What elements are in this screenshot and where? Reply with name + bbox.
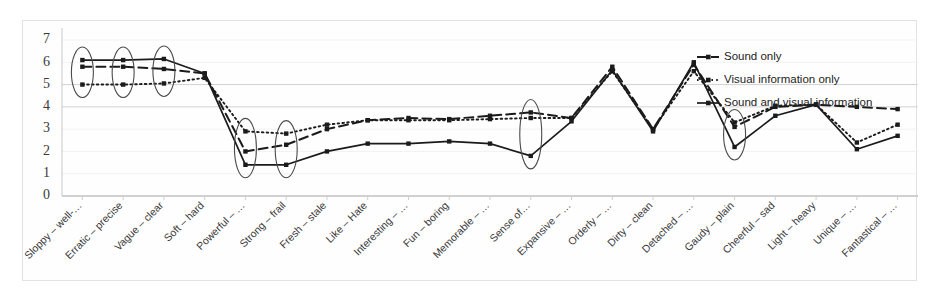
data-point-2-2 [162, 57, 166, 61]
data-point-0-1 [121, 65, 125, 69]
data-point-1-5 [284, 131, 288, 135]
data-point-2-9 [447, 139, 451, 143]
data-point-1-6 [325, 122, 329, 126]
data-point-1-15 [692, 69, 696, 73]
y-tick-label-2: 2 [43, 143, 50, 158]
data-point-2-4 [243, 163, 247, 167]
legend-marker-2 [706, 101, 711, 106]
data-point-0-6 [325, 127, 329, 131]
data-point-2-1 [121, 58, 125, 62]
x-axis [62, 196, 918, 200]
data-point-0-11 [529, 110, 533, 114]
y-axis: 01234567 [43, 28, 62, 202]
data-point-1-19 [855, 140, 859, 144]
y-tick-label-4: 4 [43, 98, 50, 113]
y-tick-label-6: 6 [43, 54, 50, 69]
data-point-2-5 [284, 163, 288, 167]
data-point-2-11 [529, 154, 533, 158]
annotation-ellipse-1 [112, 47, 134, 98]
y-tick-label-0: 0 [43, 187, 50, 202]
y-tick-label-7: 7 [43, 31, 50, 46]
data-point-2-12 [569, 119, 573, 123]
data-point-1-8 [406, 118, 410, 122]
data-point-0-0 [80, 65, 84, 69]
data-point-1-20 [895, 122, 899, 126]
data-point-1-0 [80, 82, 84, 86]
data-point-2-7 [366, 141, 370, 145]
legend-label-1: Visual information only [724, 73, 840, 85]
data-point-0-5 [284, 143, 288, 147]
x-tick-labels: Sloppy – well-…Erratic – preciseVague – … [22, 198, 899, 261]
data-point-2-20 [895, 134, 899, 138]
legend-label-2: Sound and visual information [724, 96, 872, 108]
data-point-0-16 [732, 125, 736, 129]
data-point-2-19 [855, 147, 859, 151]
data-point-1-16 [732, 120, 736, 124]
annotation-ellipse-0 [71, 47, 93, 98]
data-point-2-15 [692, 60, 696, 64]
y-tick-label-1: 1 [43, 165, 50, 180]
data-point-2-10 [488, 141, 492, 145]
data-point-1-11 [529, 116, 533, 120]
data-point-1-9 [447, 118, 451, 122]
data-point-1-2 [162, 81, 166, 85]
data-point-0-20 [895, 107, 899, 111]
data-point-2-16 [732, 145, 736, 149]
data-point-0-4 [243, 149, 247, 153]
data-point-2-3 [202, 71, 206, 75]
data-point-2-0 [80, 58, 84, 62]
annotation-ellipse-11 [520, 99, 542, 168]
data-point-1-4 [243, 129, 247, 133]
y-tick-label-3: 3 [43, 120, 50, 135]
annotation-ellipse-16 [724, 109, 746, 160]
annotation-ellipses [71, 46, 745, 178]
data-point-1-1 [121, 82, 125, 86]
data-point-2-8 [406, 141, 410, 145]
data-point-1-7 [366, 118, 370, 122]
data-point-1-10 [488, 117, 492, 121]
data-point-2-17 [773, 114, 777, 118]
legend: Sound onlyVisual information onlySound a… [697, 50, 872, 108]
data-point-0-2 [162, 67, 166, 71]
data-point-2-6 [325, 149, 329, 153]
data-point-2-14 [651, 129, 655, 133]
line-chart: 01234567 Sound onlyVisual information on… [0, 0, 941, 303]
y-tick-label-5: 5 [43, 76, 50, 91]
data-point-2-13 [610, 68, 614, 72]
chart-container: 01234567 Sound onlyVisual information on… [0, 0, 941, 303]
legend-marker-1 [706, 78, 711, 83]
annotation-ellipse-2 [153, 46, 175, 97]
legend-marker-0 [706, 55, 711, 60]
legend-label-0: Sound only [724, 50, 782, 62]
